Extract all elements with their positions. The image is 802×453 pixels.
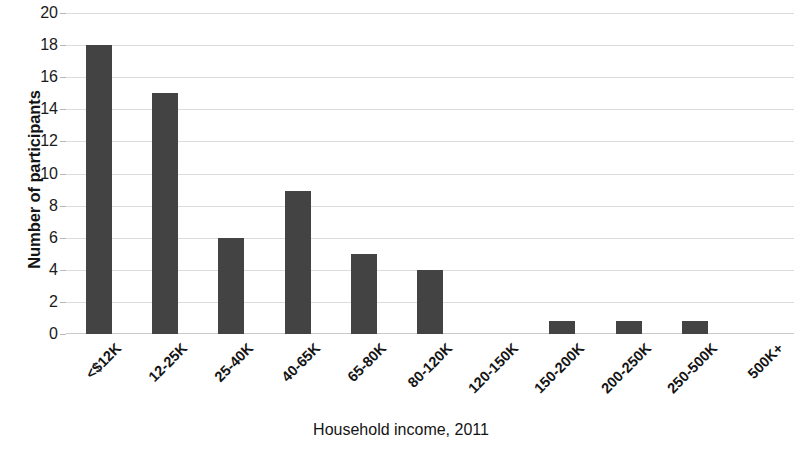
bar[interactable]	[417, 270, 443, 334]
x-axis-tick-label: 500K+	[744, 340, 786, 382]
y-axis-tick-label: 16	[22, 69, 58, 85]
x-axis-tick-label: <$12K	[83, 340, 125, 382]
y-axis-tick-label: 18	[22, 37, 58, 53]
bar[interactable]	[351, 254, 377, 334]
x-axis-tick-label: 150-200K	[531, 340, 587, 396]
bars-layer	[66, 13, 794, 334]
x-axis-tick-label: 200-250K	[597, 340, 653, 396]
bar-slot	[331, 13, 397, 334]
bar-slot	[529, 13, 595, 334]
bar-slot	[66, 13, 132, 334]
bar-slot	[662, 13, 728, 334]
bar[interactable]	[86, 45, 112, 334]
y-axis-tick-label: 4	[22, 262, 58, 278]
bar-slot	[463, 13, 529, 334]
x-axis-tick-label: 25-40K	[212, 340, 257, 385]
y-axis-tick-label: 14	[22, 101, 58, 117]
x-axis-title: Household income, 2011	[0, 421, 802, 439]
y-axis-tick-labels: 20181614121086420	[22, 6, 58, 340]
bar-chart: Number of participants 20181614121086420…	[0, 0, 802, 453]
x-axis-tick-label: 120-150K	[465, 340, 521, 396]
bar[interactable]	[616, 321, 642, 334]
y-axis-tick-mark	[60, 334, 66, 335]
x-axis-tick-label: 65-80K	[344, 340, 389, 385]
bar[interactable]	[682, 321, 708, 334]
plot-area	[66, 13, 794, 334]
bar[interactable]	[218, 238, 244, 334]
x-axis-tick-labels: <$12K12-25K25-40K40-65K65-80K80-120K120-…	[66, 338, 794, 414]
bar[interactable]	[152, 93, 178, 334]
bar-slot	[595, 13, 661, 334]
y-axis-tick-label: 8	[22, 198, 58, 214]
y-axis-tick-label: 20	[22, 5, 58, 21]
y-axis-tick-label: 6	[22, 230, 58, 246]
bar-slot	[132, 13, 198, 334]
bar-slot	[265, 13, 331, 334]
y-axis-tick-label: 12	[22, 133, 58, 149]
bar[interactable]	[285, 191, 311, 334]
y-axis-tick-label: 2	[22, 294, 58, 310]
bar[interactable]	[549, 321, 575, 334]
x-axis-tick-label: 12-25K	[146, 340, 191, 385]
x-axis-tick-label: 80-120K	[405, 340, 456, 391]
bar-slot	[728, 13, 794, 334]
bar-slot	[397, 13, 463, 334]
x-axis-tick-label: 40-65K	[278, 340, 323, 385]
bar-slot	[198, 13, 264, 334]
x-axis-tick-label: 250-500K	[664, 340, 720, 396]
y-axis-tick-label: 10	[22, 166, 58, 182]
y-axis-tick-label: 0	[22, 326, 58, 342]
